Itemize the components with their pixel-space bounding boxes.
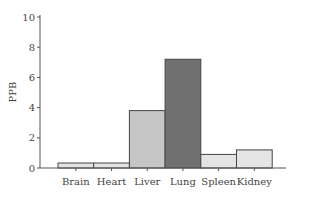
y-axis-label: PPB [7, 82, 18, 103]
y-tick-label: 6 [29, 72, 35, 83]
x-tick-label: Brain [62, 176, 90, 187]
bar-chart: 0246810 BrainHeartLiverLungSpleenKidney … [0, 0, 311, 197]
y-axis: 0246810 [22, 12, 40, 174]
bars [58, 59, 272, 168]
y-tick-label: 2 [29, 132, 35, 143]
x-tick-label: Heart [97, 176, 126, 187]
bar-spleen [201, 154, 237, 168]
x-tick-label: Spleen [201, 176, 236, 187]
x-tick-label: Kidney [237, 176, 272, 187]
y-tick-label: 0 [29, 163, 35, 174]
y-tick-label: 10 [22, 12, 35, 23]
bar-brain [58, 163, 94, 168]
x-tick-label: Lung [170, 176, 197, 187]
bar-liver [129, 111, 165, 168]
bar-kidney [237, 150, 273, 168]
bar-heart [94, 163, 130, 168]
x-tick-label: Liver [134, 176, 160, 187]
x-axis: BrainHeartLiverLungSpleenKidney [40, 168, 286, 187]
y-tick-label: 4 [29, 102, 35, 113]
y-tick-label: 8 [29, 42, 35, 53]
bar-lung [165, 59, 201, 168]
